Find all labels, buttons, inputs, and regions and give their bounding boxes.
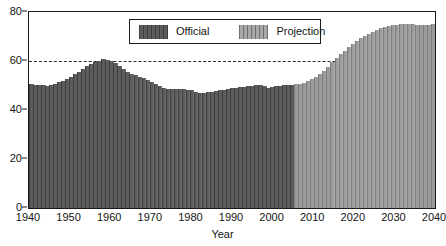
x-tick-label-1950: 1950 [56, 212, 80, 223]
y-tick-mark-60 [22, 60, 27, 61]
y-axis: 020406080 [0, 11, 26, 209]
x-tick-label-2000: 2000 [259, 212, 283, 223]
x-tick-label-1980: 1980 [178, 212, 202, 223]
legend-swatch-projection-icon [239, 25, 268, 39]
x-axis: 1940195019601970198019902000201020202030… [28, 209, 436, 227]
y-tick-mark-0 [22, 207, 27, 208]
y-tick-label-60: 60 [10, 55, 22, 66]
legend-entry-projection: Projection [239, 20, 325, 43]
y-tick-label-20: 20 [10, 153, 22, 164]
x-tick-label-2010: 2010 [300, 212, 324, 223]
x-tick-label-2030: 2030 [381, 212, 405, 223]
bar [431, 24, 436, 208]
y-tick-mark-20 [22, 158, 27, 159]
x-tick-label-1990: 1990 [219, 212, 243, 223]
x-tick-label-1960: 1960 [97, 212, 121, 223]
legend-label-official: Official [176, 26, 209, 37]
y-tick-mark-40 [22, 109, 27, 110]
x-tick-label-1940: 1940 [16, 212, 40, 223]
x-axis-title: Year [0, 228, 445, 240]
chart-legend: Official Projection [129, 19, 321, 44]
legend-entry-official: Official [139, 20, 209, 43]
legend-swatch-official-icon [139, 25, 168, 39]
legend-label-projection: Projection [276, 26, 325, 37]
x-tick-label-2040: 2040 [422, 212, 446, 223]
y-tick-label-80: 80 [10, 6, 22, 17]
y-tick-label-40: 40 [10, 104, 22, 115]
x-tick-label-2020: 2020 [341, 212, 365, 223]
y-tick-mark-80 [22, 11, 27, 12]
x-tick-label-1970: 1970 [138, 212, 162, 223]
